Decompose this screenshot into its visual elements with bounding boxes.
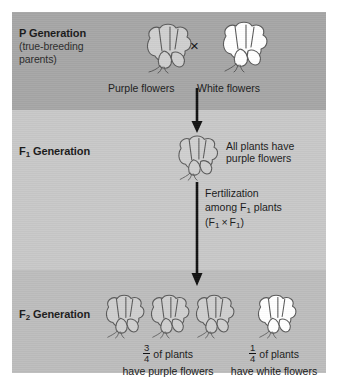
flower-icon-f2-purple-2 <box>145 293 195 340</box>
caption-white-flowers-parent: White flowers <box>197 82 260 95</box>
f2-generation-label-text: F <box>19 308 26 320</box>
flower-icon-f2-purple-3 <box>190 293 240 340</box>
fert-line2-suffix: plants <box>251 201 282 213</box>
cross-symbol: × <box>190 37 199 54</box>
f2-generation-label-suffix: Generation <box>30 308 90 320</box>
fert-line2-prefix: among F <box>205 201 246 213</box>
flower-icon-f2-purple-1 <box>100 293 150 340</box>
caption-f1-offspring-line2: purple flowers <box>226 152 291 165</box>
f1-generation-label-suffix: Generation <box>30 145 90 157</box>
p-generation-label: P Generation (true-breeding parents) <box>19 26 86 67</box>
fraction-numerator: 3 <box>143 343 150 354</box>
fert-line3-sub1: 1 <box>215 221 219 230</box>
caption-f2-white-ratio: 1 4 of plants have white flowers <box>213 344 335 378</box>
f1-generation-label-text: F <box>19 145 26 157</box>
f2-generation-label-subscript: 2 <box>26 313 30 322</box>
fert-line3-sub2: 1 <box>236 221 240 230</box>
caption-f2-white-line2: have white flowers <box>213 365 335 378</box>
fert-line2-subscript: 1 <box>246 206 250 215</box>
fert-line3-times: × <box>219 216 229 228</box>
caption-f1-offspring-line1: All plants have <box>226 140 294 153</box>
fert-line3-close: ) <box>240 216 244 228</box>
caption-f2-white-line1-suffix: of plants <box>259 348 299 361</box>
caption-purple-flowers-parent: Purple flowers <box>108 82 175 95</box>
f1-generation-label: F1 Generation <box>19 144 90 158</box>
caption-f2-white-line1: 1 4 of plants <box>213 344 335 364</box>
fraction-one-fourth: 1 4 <box>249 343 256 363</box>
f2-generation-label: F2 Generation <box>19 307 90 321</box>
arrow-f1-to-f2 <box>189 182 205 288</box>
fraction-denominator: 4 <box>249 354 256 364</box>
p-generation-sublabel-line2: parents) <box>19 53 86 66</box>
flower-icon-f1-purple <box>172 134 224 182</box>
flower-icon-p-white-parent <box>216 20 274 74</box>
fraction-three-fourths: 3 4 <box>143 343 150 363</box>
fertilization-note-line3: (F1×F1) <box>205 215 282 230</box>
flower-icon-f2-white-1 <box>252 293 302 340</box>
fertilization-note-line1: Fertilization <box>205 186 282 200</box>
f1-generation-label-subscript: 1 <box>26 150 30 159</box>
fertilization-note-line2: among F1 plants <box>205 200 282 215</box>
fraction-denominator: 4 <box>143 354 150 364</box>
fert-line3-open: (F <box>205 216 215 228</box>
pea-plant-cross-figure: P Generation (true-breeding parents) × <box>0 0 338 389</box>
caption-f2-purple-line1-suffix: of plants <box>153 348 193 361</box>
fertilization-note: Fertilization among F1 plants (F1×F1) <box>205 186 282 230</box>
p-generation-label-text: P Generation <box>19 27 86 39</box>
arrow-p-to-f1 <box>189 88 205 134</box>
fraction-numerator: 1 <box>249 343 256 354</box>
fert-line3-f2: F <box>230 216 236 228</box>
p-generation-sublabel-line1: (true-breeding <box>19 40 86 53</box>
